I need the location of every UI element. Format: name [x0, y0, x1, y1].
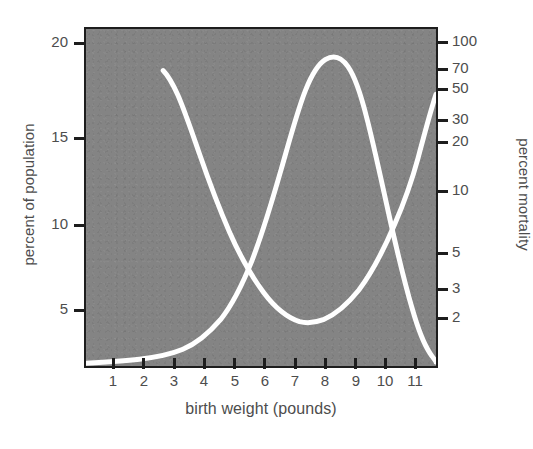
y-axis-right-title: percent mortality — [516, 95, 533, 295]
x-ticklabel-3: 3 — [159, 372, 189, 389]
x-ticklabel-4: 4 — [189, 372, 219, 389]
x-ticklabel-2: 2 — [129, 372, 159, 389]
x-ticklabel-5: 5 — [220, 372, 250, 389]
x-axis-title: birth weight (pounds) — [84, 400, 438, 418]
x-ticklabel-1: 1 — [98, 372, 128, 389]
x-ticklabel-10: 10 — [370, 372, 400, 389]
x-ticklabel-9: 9 — [341, 372, 371, 389]
x-ticklabel-8: 8 — [310, 372, 340, 389]
y-axis-left-title: percent of population — [20, 95, 37, 295]
x-ticklabel-7: 7 — [280, 372, 310, 389]
x-ticklabel-6: 6 — [250, 372, 280, 389]
x-ticklabel-11: 11 — [400, 372, 430, 389]
